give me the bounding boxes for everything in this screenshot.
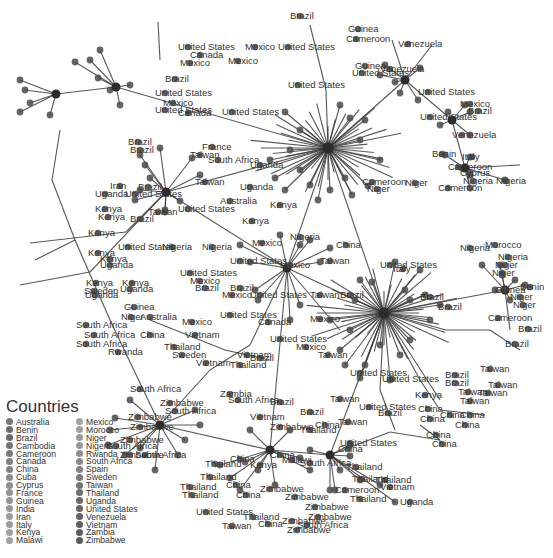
node-label: Taiwan xyxy=(320,255,350,266)
graph-node xyxy=(392,499,399,506)
graph-node xyxy=(307,182,314,189)
node-label: Brazil xyxy=(518,323,542,334)
node-label: Mexico xyxy=(310,313,340,324)
node-label: United States xyxy=(178,203,235,214)
node-label: Nigeria xyxy=(463,175,494,186)
node-label: Brazil xyxy=(270,396,294,407)
graph-node xyxy=(407,337,414,344)
legend-dot-icon xyxy=(6,489,13,496)
legend-dot-icon xyxy=(6,537,13,544)
node-label: United States xyxy=(250,289,307,300)
node-label: United States xyxy=(418,86,475,97)
graph-node xyxy=(297,167,304,174)
node-label: Thailand xyxy=(346,461,382,472)
graph-node xyxy=(72,59,79,66)
node-label: United States xyxy=(278,41,335,52)
graph-node xyxy=(297,127,304,134)
node-label: Cameroon xyxy=(488,312,532,323)
graph-node xyxy=(237,242,244,249)
graph-node xyxy=(297,302,304,309)
node-label: China xyxy=(236,489,262,500)
legend-item: Malawi xyxy=(6,536,66,544)
node-label: Brazil xyxy=(300,406,324,417)
legend-dot-icon xyxy=(6,434,13,441)
node-label: Vietnam xyxy=(185,329,220,340)
node-label: Nigeria xyxy=(290,231,321,242)
legend-dot-icon xyxy=(76,450,83,457)
legend-dot-icon xyxy=(76,426,83,433)
graph-node xyxy=(182,437,189,444)
graph-node xyxy=(197,422,204,429)
node-label: Venezuela xyxy=(398,38,443,49)
graph-node xyxy=(349,192,356,199)
graph-node xyxy=(315,197,322,204)
graph-node xyxy=(142,162,149,169)
node-label: China xyxy=(140,329,166,340)
hub-node xyxy=(112,83,121,92)
node-label: Uganda xyxy=(400,496,434,507)
node-label: Niger xyxy=(367,183,390,194)
node-label: South Africa xyxy=(130,383,182,394)
node-label: Vietnam xyxy=(380,481,415,492)
legend-title: Countries xyxy=(6,398,176,416)
graph-node xyxy=(357,277,364,284)
legend: Countries AustraliaBeninBrazilCambodiaCa… xyxy=(6,398,176,544)
node-label: Brazil xyxy=(378,407,402,418)
node-label: Kenya xyxy=(250,459,278,470)
graph-node xyxy=(342,175,349,182)
legend-dot-icon xyxy=(76,505,83,512)
node-label: Taiwan xyxy=(480,363,510,374)
node-label: Kenya xyxy=(242,215,270,226)
legend-dot-icon xyxy=(6,482,13,489)
node-label: Nigeria xyxy=(162,241,193,252)
node-label: China xyxy=(455,419,481,430)
node-label: Nigeria xyxy=(202,241,233,252)
legend-dot-icon xyxy=(6,497,13,504)
legend-column-2: MexicoMoroccoNigerNigeriaRwandaSouth Afr… xyxy=(76,418,136,544)
node-label: Brazil xyxy=(130,144,154,155)
graph-node xyxy=(287,147,294,154)
node-label: Brazil xyxy=(290,10,314,21)
node-label: Cameroon xyxy=(346,33,390,44)
legend-dot-icon xyxy=(76,434,83,441)
node-label: Taiwan xyxy=(338,416,368,427)
node-label: China xyxy=(432,438,458,449)
graph-edge xyxy=(100,50,116,87)
graph-edge xyxy=(35,240,75,260)
node-label: Mexico xyxy=(180,57,210,68)
graph-node xyxy=(437,122,444,129)
legend-item: Guinea xyxy=(6,497,66,505)
legend-item: India xyxy=(6,505,66,513)
hub-node xyxy=(379,308,390,319)
graph-edge xyxy=(166,158,192,192)
legend-dot-icon xyxy=(6,418,13,425)
node-label: Mexico xyxy=(280,259,310,270)
node-label: United States xyxy=(230,255,287,266)
graph-node xyxy=(17,109,24,116)
graph-node xyxy=(307,447,314,454)
node-label: Brazil xyxy=(165,73,189,84)
legend-dot-icon xyxy=(76,418,83,425)
legend-dot-icon xyxy=(6,442,13,449)
legend-dot-icon xyxy=(76,537,83,544)
graph-node xyxy=(87,57,94,64)
legend-dot-icon xyxy=(6,513,13,520)
node-label: Brazil xyxy=(340,289,364,300)
node-label: Kenya xyxy=(98,211,126,222)
graph-node xyxy=(47,112,54,119)
graph-node xyxy=(27,100,34,107)
legend-label: Malawi xyxy=(16,536,43,544)
legend-dot-icon xyxy=(6,466,13,473)
graph-node xyxy=(397,90,404,97)
graph-node xyxy=(347,327,354,334)
node-label: United States xyxy=(222,106,279,117)
graph-node xyxy=(95,75,102,82)
legend-dot-icon xyxy=(76,482,83,489)
node-label: Brazil xyxy=(250,352,274,363)
legend-dot-icon xyxy=(6,505,13,512)
hub-node xyxy=(323,143,334,154)
node-label: Kenya xyxy=(88,227,116,238)
graph-node xyxy=(117,102,124,109)
graph-node xyxy=(327,187,334,194)
node-label: Sweden xyxy=(84,285,118,296)
